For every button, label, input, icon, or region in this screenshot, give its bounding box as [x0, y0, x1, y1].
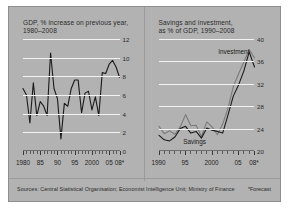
- x-tick: [85, 151, 86, 154]
- x-tick: [78, 151, 79, 154]
- y-axis-tick-label: 10: [123, 54, 130, 61]
- x-tick: [196, 151, 197, 154]
- x-tick: [68, 151, 69, 154]
- gridline: [23, 39, 120, 40]
- x-tick: [33, 151, 34, 154]
- x-tick: [212, 151, 213, 155]
- x-tick: [88, 151, 89, 154]
- series-label-investment: Investment: [218, 48, 249, 55]
- x-tick: [201, 151, 202, 154]
- x-axis-tick-label: 95: [181, 159, 188, 166]
- x-tick: [113, 151, 114, 154]
- gdp-x-tickmarks: [23, 151, 120, 155]
- x-tick: [217, 151, 218, 154]
- plot-area-gdp: [23, 39, 120, 151]
- x-axis-tick-label: 2000: [85, 159, 99, 166]
- x-tick: [82, 151, 83, 154]
- x-tick: [238, 151, 239, 155]
- x-axis-tick-label: 1980: [16, 159, 30, 166]
- y-axis-tick-label: 4: [123, 110, 126, 117]
- si-y-axis-labels: 202428323640: [254, 39, 274, 151]
- x-tick: [233, 151, 234, 154]
- y-axis-tick-label: 28: [257, 103, 264, 110]
- savings-series-line: [159, 52, 255, 141]
- x-tick: [23, 151, 24, 155]
- gridline: [159, 39, 255, 40]
- y-axis-tick-label: 24: [257, 125, 264, 132]
- x-axis-tick-label: 95: [71, 159, 78, 166]
- investment-series-line: [159, 50, 255, 137]
- x-tick: [61, 151, 62, 154]
- x-tick: [92, 151, 93, 155]
- x-tick: [164, 151, 165, 154]
- gridline: [159, 106, 255, 107]
- gridline: [23, 76, 120, 77]
- x-tick: [99, 151, 100, 154]
- source-note: Sources: Central Statistical Organisatio…: [17, 186, 235, 192]
- y-axis-tick-label: 32: [257, 80, 264, 87]
- gdp-x-axis-labels: 198085909520000508*: [23, 159, 120, 169]
- x-tick: [75, 151, 76, 155]
- panel-inner-gdp: GDP, % increase on previous year, 1980–2…: [15, 13, 140, 177]
- gdp-y-axis-labels: 024681012: [120, 39, 138, 151]
- x-tick: [190, 151, 191, 154]
- y-axis-tick-label: 2: [123, 129, 126, 136]
- x-tick: [95, 151, 96, 154]
- x-tick: [64, 151, 65, 154]
- x-tick: [206, 151, 207, 154]
- x-axis-tick-label: 08*: [249, 159, 259, 166]
- x-axis-tick-label: 05: [106, 159, 113, 166]
- chart-panels: GDP, % increase on previous year, 1980–2…: [9, 7, 280, 181]
- x-tick: [51, 151, 52, 154]
- x-tick: [44, 151, 45, 154]
- y-axis-tick-label: 0: [123, 148, 126, 155]
- x-tick: [159, 151, 160, 155]
- y-axis-tick-label: 8: [123, 73, 126, 80]
- x-axis-tick-label: 2000: [204, 159, 218, 166]
- si-x-tickmarks: [159, 151, 255, 155]
- x-tick: [169, 151, 170, 154]
- gridline: [23, 132, 120, 133]
- gridline: [23, 95, 120, 96]
- x-tick: [57, 151, 58, 155]
- figure-frame: GDP, % increase on previous year, 1980–2…: [8, 6, 281, 202]
- x-tick: [249, 151, 250, 154]
- chart-panel-savings-investment: Savings and investment, as % of GDP, 199…: [145, 7, 281, 181]
- chart-panel-gdp: GDP, % increase on previous year, 1980–2…: [9, 7, 145, 181]
- x-axis-tick-label: 85: [37, 159, 44, 166]
- x-axis-tick-label: 1990: [151, 159, 165, 166]
- x-tick: [54, 151, 55, 154]
- x-axis-tick-label: 08*: [115, 159, 125, 166]
- x-tick: [174, 151, 175, 154]
- chart-title-gdp: GDP, % increase on previous year, 1980–2…: [23, 19, 128, 36]
- y-axis-tick-label: 36: [257, 58, 264, 65]
- x-axis-tick-label: 90: [54, 159, 61, 166]
- series-label-savings: Savings: [183, 138, 206, 145]
- y-axis-tick-label: 40: [257, 36, 264, 43]
- x-tick: [227, 151, 228, 154]
- chart-title-savings-investment: Savings and investment, as % of GDP, 199…: [159, 19, 235, 36]
- x-tick: [120, 151, 121, 155]
- gridline: [159, 84, 255, 85]
- x-tick: [30, 151, 31, 154]
- savings-investment-line-svg: [159, 39, 255, 151]
- y-axis-tick-label: 20: [257, 148, 264, 155]
- figure-footer: Sources: Central Statistical Organisatio…: [9, 178, 280, 201]
- x-tick: [180, 151, 181, 154]
- gridline: [159, 61, 255, 62]
- forecast-note: *Forecast: [248, 186, 271, 192]
- x-tick: [40, 151, 41, 155]
- x-tick: [71, 151, 72, 154]
- si-x-axis-labels: 19909520000508*: [159, 159, 255, 169]
- x-tick: [116, 151, 117, 154]
- x-tick: [243, 151, 244, 154]
- x-tick: [222, 151, 223, 154]
- x-tick: [37, 151, 38, 154]
- x-axis-tick-label: 05: [235, 159, 242, 166]
- x-tick: [106, 151, 107, 154]
- x-tick: [102, 151, 103, 154]
- x-tick: [47, 151, 48, 154]
- panel-inner-savings-investment: Savings and investment, as % of GDP, 199…: [151, 13, 277, 177]
- y-axis-tick-label: 6: [123, 92, 126, 99]
- gridline: [159, 129, 255, 130]
